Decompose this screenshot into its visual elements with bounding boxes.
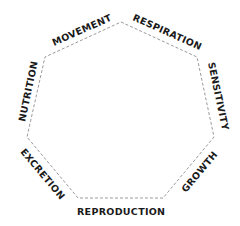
heptagon-outline <box>27 22 214 198</box>
label-nutrition: NUTRITION <box>16 60 40 123</box>
label-sensitivity: SENSITIVITY <box>206 61 231 131</box>
life-processes-diagram: MOVEMENT RESPIRATION SENSITIVITY GROWTH … <box>0 0 240 226</box>
label-excretion: EXCRETION <box>18 146 67 201</box>
label-reproduction: REPRODUCTION <box>77 206 165 217</box>
label-respiration: RESPIRATION <box>131 12 203 52</box>
